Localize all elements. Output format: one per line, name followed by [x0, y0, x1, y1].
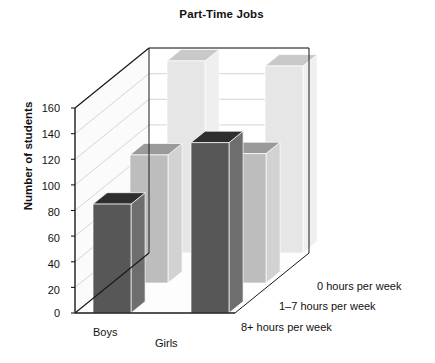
bar-girls-d1-side: [266, 142, 280, 283]
bar-boys-d0-front: [93, 204, 131, 313]
plot-area: [0, 0, 435, 363]
bar-girls-d0-front: [191, 143, 229, 313]
chart-root: Part-Time Jobs Number of students 160 14…: [0, 0, 435, 363]
bar-girls-d0-side: [229, 131, 243, 313]
bar-boys-d1-side: [168, 144, 182, 284]
bar-girls-d2-side: [303, 55, 317, 253]
bar-boys-d0-side: [131, 193, 145, 313]
